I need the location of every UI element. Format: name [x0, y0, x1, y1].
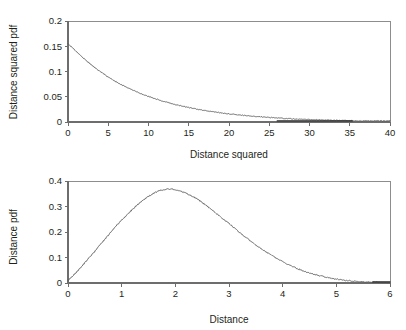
figure-container: 0510152025303540 00.050.10.150.2 Distanc… — [0, 0, 406, 330]
chart-bottom-y-axis-title: Distance pdf — [8, 209, 19, 265]
x-tick-label: 0 — [65, 288, 70, 299]
x-tick-label: 3 — [226, 288, 231, 299]
y-tick-label: 0.15 — [44, 41, 63, 52]
x-tick-label: 25 — [264, 127, 275, 138]
y-tick-label: 0.1 — [49, 66, 62, 77]
x-tick-label: 1 — [119, 288, 124, 299]
chart-top-frame — [68, 21, 390, 122]
x-tick-label: 5 — [334, 288, 339, 299]
chart-top-x-axis-title: Distance squared — [190, 149, 268, 160]
chart-distance-squared-pdf: 0510152025303540 00.050.10.150.2 Distanc… — [0, 0, 406, 165]
y-tick-label: 0.2 — [49, 15, 62, 26]
x-tick-label: 4 — [280, 288, 285, 299]
x-tick-label: 20 — [224, 127, 235, 138]
chart-top-x-tick-labels: 0510152025303540 — [65, 127, 395, 138]
y-tick-label: 0.2 — [49, 226, 62, 237]
chart-bottom-svg: 0123456 00.10.20.30.4 Distance Distance … — [0, 165, 406, 330]
x-tick-label: 10 — [143, 127, 154, 138]
chart-top-y-tick-labels: 00.050.10.150.2 — [44, 15, 63, 127]
x-tick-label: 0 — [65, 127, 70, 138]
y-tick-label: 0 — [57, 277, 62, 288]
x-tick-label: 40 — [385, 127, 396, 138]
chart-distance-pdf: 0123456 00.10.20.30.4 Distance Distance … — [0, 165, 406, 330]
x-tick-label: 6 — [387, 288, 392, 299]
chart-bottom-y-tick-labels: 00.10.20.30.4 — [49, 175, 62, 288]
chart-bottom-x-axis-title: Distance — [210, 314, 249, 325]
x-tick-label: 35 — [344, 127, 355, 138]
chart-bottom-frame — [68, 181, 390, 283]
chart-top-svg: 0510152025303540 00.050.10.150.2 Distanc… — [0, 0, 406, 165]
x-tick-label: 5 — [106, 127, 111, 138]
y-tick-label: 0.1 — [49, 252, 62, 263]
y-tick-label: 0.3 — [49, 201, 62, 212]
y-tick-label: 0 — [57, 116, 62, 127]
x-tick-label: 2 — [173, 288, 178, 299]
y-tick-label: 0.4 — [49, 175, 62, 186]
y-tick-label: 0.05 — [44, 91, 63, 102]
x-tick-label: 30 — [304, 127, 315, 138]
chart-bottom-curve — [68, 189, 390, 283]
chart-top-y-axis-title: Distance squared pdf — [8, 25, 19, 120]
chart-top-curve — [68, 44, 390, 122]
x-tick-label: 15 — [183, 127, 194, 138]
chart-bottom-x-tick-labels: 0123456 — [65, 288, 392, 299]
